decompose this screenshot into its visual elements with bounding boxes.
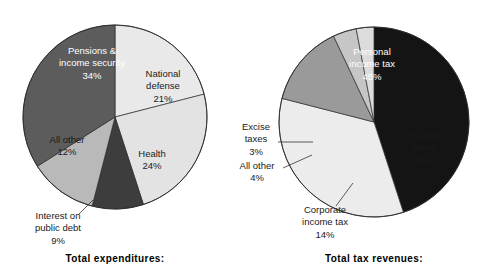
- pie-chart-figure: Nationaldefense21%Health24%Interest onpu…: [0, 0, 483, 269]
- chart-title-total-tax-revenues: Total tax revenues:: [325, 253, 423, 264]
- figure-canvas: Nationaldefense21%Health24%Interest onpu…: [0, 0, 483, 269]
- slice-label-excise-taxes: Excisetaxes3%: [242, 120, 270, 156]
- pie-total-expenditures: Nationaldefense21%Health24%Interest onpu…: [23, 25, 207, 264]
- slice-label-interest-on-public-debt: Interest onpublic debt9%: [35, 209, 81, 245]
- pie-total-tax-revenues: Personalincome tax45%Payrolltaxes34%Corp…: [240, 27, 469, 264]
- slice-label-corporate-income-tax: Corporateincome tax14%: [302, 203, 348, 239]
- chart-title-total-expenditures: Total expenditures:: [65, 253, 164, 264]
- slice-label-all-other: All other4%: [240, 159, 275, 183]
